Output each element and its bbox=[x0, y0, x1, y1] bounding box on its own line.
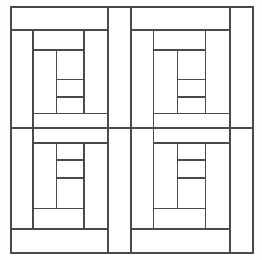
bottom-left-block-top-strip bbox=[11, 229, 108, 253]
quilt-diagram-container bbox=[0, 0, 262, 260]
bottom-right-block-inner-left bbox=[154, 143, 178, 209]
bottom-left-block-inner-right bbox=[84, 143, 108, 229]
quilt-block-diagram bbox=[0, 0, 262, 260]
bottom-right-block-inner-right bbox=[205, 143, 229, 229]
top-right-block-inner-left bbox=[154, 50, 178, 114]
bottom-left-block-core-upper bbox=[57, 178, 85, 209]
bottom-left-block-inner-bottom bbox=[57, 143, 85, 160]
top-right-block-bottom-strip bbox=[154, 113, 230, 128]
bottom-left-block-inner-top bbox=[33, 209, 84, 230]
bottom-right-block-right-strip bbox=[230, 128, 253, 253]
bottom-right-block-bottom-strip bbox=[154, 128, 230, 143]
bottom-right-block bbox=[131, 128, 253, 253]
bottom-right-block-top-strip bbox=[131, 229, 230, 253]
top-left-block-bottom-strip bbox=[33, 113, 108, 128]
top-right-block-right-strip bbox=[230, 7, 253, 128]
top-left-block-inner-bottom bbox=[57, 97, 85, 113]
top-left-block-inner-right bbox=[84, 30, 108, 113]
quilt-blocks-group bbox=[11, 7, 253, 253]
top-right-block-inner-top bbox=[154, 30, 206, 50]
bottom-left-block-right-strip bbox=[108, 128, 131, 253]
bottom-right-block-core-upper bbox=[177, 178, 205, 209]
top-left-block-core-upper bbox=[57, 50, 85, 80]
top-right-block-core-lower bbox=[177, 80, 205, 98]
bottom-left-block-bottom-strip bbox=[33, 128, 108, 143]
bottom-left-block-left-strip bbox=[11, 128, 33, 229]
top-right-block-top-strip bbox=[131, 7, 230, 30]
top-left-block bbox=[11, 7, 131, 128]
top-right-block-core-upper bbox=[177, 50, 205, 80]
bottom-right-block-core-lower bbox=[177, 160, 205, 178]
top-right-block-inner-right bbox=[205, 30, 229, 113]
bottom-left-block bbox=[11, 128, 131, 253]
top-left-block-inner-top bbox=[33, 30, 84, 50]
top-left-block-top-strip bbox=[11, 7, 108, 30]
top-right-block bbox=[131, 7, 253, 128]
top-left-block-right-strip bbox=[108, 7, 131, 128]
top-left-block-core-lower bbox=[57, 80, 85, 98]
bottom-right-block-inner-bottom bbox=[177, 143, 205, 160]
bottom-right-block-left-strip bbox=[131, 128, 154, 229]
top-right-block-inner-bottom bbox=[177, 97, 205, 113]
bottom-left-block-inner-left bbox=[33, 143, 56, 209]
top-left-block-left-strip bbox=[11, 30, 33, 128]
top-right-block-left-strip bbox=[131, 30, 154, 128]
top-left-block-inner-left bbox=[33, 50, 56, 114]
bottom-left-block-core-lower bbox=[57, 160, 85, 178]
bottom-right-block-inner-top bbox=[154, 209, 206, 230]
